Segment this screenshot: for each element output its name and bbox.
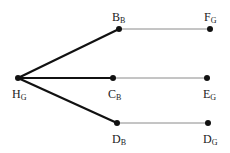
node-label-D1: DB [112,132,126,147]
node-D1 [114,120,120,126]
node-E [204,75,210,81]
node-label-C: CB [108,87,121,102]
node-D2 [205,120,211,126]
node-label-F: FG [204,10,217,25]
node-H [15,75,21,81]
node-label-H: HG [12,87,27,102]
edge-H-D1 [18,78,117,123]
node-B [116,26,122,32]
node-C [110,75,116,81]
tree-diagram: HGBBCBDBFGEGDG [0,0,230,153]
node-label-E: EG [203,87,216,102]
node-label-B: BB [112,10,125,25]
edge-H-B [18,29,119,78]
nodes [15,26,213,126]
node-label-D2: DG [203,132,218,147]
node-F [207,26,213,32]
